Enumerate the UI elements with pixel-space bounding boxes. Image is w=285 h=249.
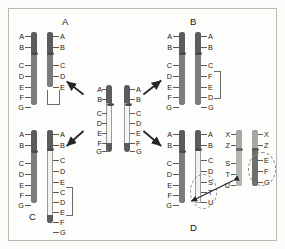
locus-label: C bbox=[136, 110, 149, 117]
locus-tick bbox=[53, 47, 59, 48]
chromatid-arm-lower bbox=[179, 55, 185, 105]
chromatid-arm-upper bbox=[31, 130, 37, 150]
locus-label: E bbox=[10, 84, 24, 91]
panel-letter-b: B bbox=[190, 16, 196, 27]
locus-tick bbox=[231, 174, 236, 175]
locus-tick bbox=[25, 205, 31, 206]
locus-label: T bbox=[218, 171, 230, 178]
locus-tick bbox=[130, 133, 135, 134]
panel-b-normal-chromosome bbox=[179, 32, 185, 105]
locus-label: B bbox=[208, 44, 222, 51]
locus-label: F bbox=[158, 94, 172, 101]
locus-label: B bbox=[60, 142, 74, 149]
chromatid-arm-upper bbox=[106, 85, 112, 103]
locus-label: Z bbox=[218, 142, 230, 149]
locus-tick bbox=[25, 134, 31, 135]
locus-tick bbox=[102, 151, 107, 152]
locus-tick bbox=[25, 145, 31, 146]
locus-label: B bbox=[136, 96, 149, 103]
locus-label: C bbox=[89, 110, 102, 117]
locus-label: E bbox=[158, 84, 172, 91]
panel-c-mutant-chromosome bbox=[47, 130, 53, 223]
locus-tick bbox=[102, 113, 107, 114]
locus-tick bbox=[201, 87, 207, 88]
locus-tick bbox=[102, 143, 107, 144]
translocation-highlight-circle-2 bbox=[248, 152, 276, 186]
locus-label: G bbox=[136, 148, 149, 155]
locus-label: F bbox=[10, 94, 24, 101]
locus-label: E bbox=[60, 179, 74, 186]
locus-tick bbox=[53, 232, 59, 233]
locus-tick bbox=[25, 174, 31, 175]
locus-tick bbox=[53, 134, 59, 135]
locus-tick bbox=[201, 47, 207, 48]
locus-tick bbox=[258, 134, 263, 135]
locus-tick bbox=[173, 87, 179, 88]
locus-tick bbox=[173, 65, 179, 66]
locus-tick bbox=[25, 107, 31, 108]
locus-tick bbox=[173, 97, 179, 98]
chromatid-arm-upper bbox=[179, 32, 185, 52]
locus-tick bbox=[130, 151, 135, 152]
locus-tick bbox=[201, 65, 207, 66]
chromatid-arm-upper bbox=[179, 130, 185, 150]
locus-tick bbox=[25, 185, 31, 186]
chromatid-arm-upper bbox=[124, 85, 130, 103]
locus-label: B bbox=[158, 44, 172, 51]
panel-letter-d: D bbox=[190, 222, 197, 233]
locus-label: A bbox=[60, 131, 74, 138]
chromatid-arm-lower bbox=[31, 153, 37, 203]
locus-label: A bbox=[208, 33, 222, 40]
locus-tick bbox=[53, 160, 59, 161]
locus-tick bbox=[173, 107, 179, 108]
locus-label: G bbox=[208, 104, 222, 111]
chromatid-arm-lower bbox=[47, 55, 53, 87]
locus-tick bbox=[201, 145, 207, 146]
figure-root: A A B C D E F G A B C D E B A B C D bbox=[0, 0, 285, 249]
locus-tick bbox=[130, 143, 135, 144]
locus-label: G bbox=[158, 104, 172, 111]
locus-tick bbox=[173, 47, 179, 48]
locus-tick bbox=[201, 76, 207, 77]
panel-d-normal-chromosome-1 bbox=[179, 130, 185, 203]
locus-label: B bbox=[10, 142, 24, 149]
locus-tick bbox=[173, 195, 179, 196]
locus-label: C bbox=[158, 160, 172, 167]
inversion-bracket bbox=[214, 71, 221, 99]
translocation-highlight-circle-1 bbox=[190, 174, 217, 209]
locus-label: A bbox=[89, 86, 102, 93]
locus-tick bbox=[201, 134, 207, 135]
chromatid-arm-upper bbox=[31, 32, 37, 52]
locus-label: D bbox=[89, 120, 102, 127]
locus-tick bbox=[25, 76, 31, 77]
locus-tick bbox=[102, 133, 107, 134]
locus-label: B bbox=[158, 142, 172, 149]
locus-tick bbox=[173, 36, 179, 37]
locus-tick bbox=[130, 123, 135, 124]
locus-label: D bbox=[136, 120, 149, 127]
panel-d-normal-chromosome-2 bbox=[236, 130, 242, 186]
locus-label: G bbox=[89, 148, 102, 155]
chromatid-arm-upper bbox=[236, 130, 242, 148]
panel-a-mutant-chromosome bbox=[47, 32, 53, 87]
locus-label: X bbox=[264, 131, 276, 138]
locus-label: G bbox=[10, 202, 24, 209]
locus-tick bbox=[173, 185, 179, 186]
locus-tick bbox=[102, 99, 107, 100]
locus-tick bbox=[25, 195, 31, 196]
chromatid-arm-lower bbox=[179, 153, 185, 203]
locus-tick bbox=[53, 76, 59, 77]
locus-label: A bbox=[136, 86, 149, 93]
locus-label: C bbox=[60, 62, 74, 69]
locus-tick bbox=[231, 163, 236, 164]
locus-tick bbox=[53, 87, 59, 88]
panel-a-normal-chromosome bbox=[31, 32, 37, 105]
locus-tick bbox=[102, 89, 107, 90]
locus-label: B bbox=[10, 44, 24, 51]
locus-tick bbox=[201, 107, 207, 108]
locus-tick bbox=[231, 134, 236, 135]
locus-label: X bbox=[218, 131, 230, 138]
panel-letter-c: C bbox=[29, 211, 36, 222]
locus-label: Z bbox=[264, 142, 276, 149]
locus-tick bbox=[25, 36, 31, 37]
